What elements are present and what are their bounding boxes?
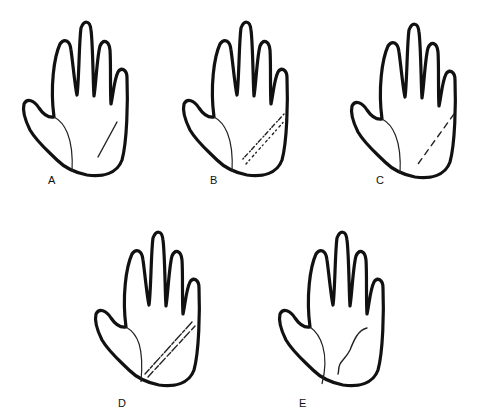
hand-outline-icon (162, 12, 302, 182)
hand-panel-d: D (80, 222, 230, 402)
hand-outline-icon (330, 14, 470, 184)
panel-label: D (118, 397, 126, 409)
panel-label: C (376, 174, 384, 186)
panel-label: A (48, 174, 55, 186)
panel-label: E (299, 397, 306, 409)
panel-label: B (210, 174, 217, 186)
hand-outline-icon (2, 12, 142, 182)
hand-panel-b: B (162, 12, 302, 182)
hand-outline-icon (250, 222, 400, 402)
hand-panel-e: E (250, 222, 400, 402)
hand-panel-c: C (330, 14, 470, 184)
hand-outline-icon (80, 222, 230, 402)
hand-panel-a: A (2, 12, 142, 182)
